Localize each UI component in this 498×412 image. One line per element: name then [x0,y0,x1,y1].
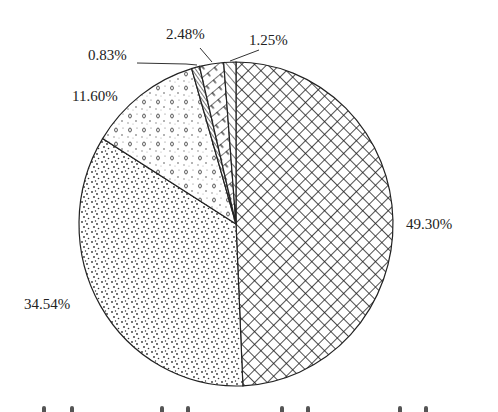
pie-chart [0,0,498,412]
leader-line-1-25 [230,50,259,61]
slice-label-1-25: 1.25% [249,33,288,48]
leader-line-0-83 [137,63,197,65]
slice-label-49-30: 49.30% [406,217,452,232]
slice-label-0-83: 0.83% [88,48,127,63]
pie-slice-49-30 [236,62,393,386]
pie-slices [79,62,393,386]
leader-line-2-48 [200,48,212,62]
slice-label-11-60: 11.60% [72,89,118,104]
slice-label-34-54: 34.54% [24,297,70,312]
slice-label-2-48: 2.48% [166,27,205,42]
clipped-legend-row [0,404,498,412]
